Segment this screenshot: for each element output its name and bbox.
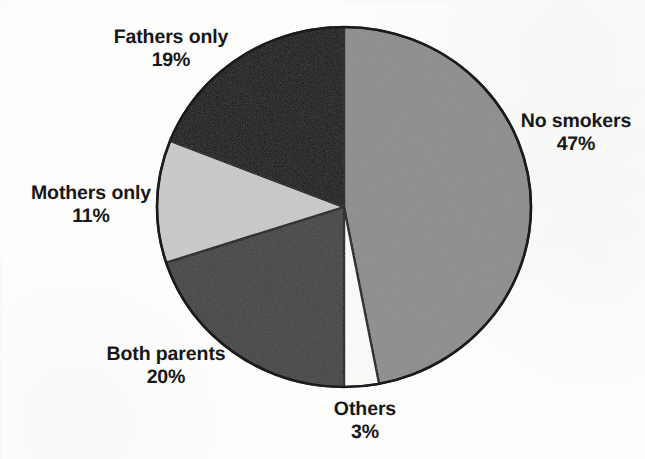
slice-label-fathers-only-name: Fathers only <box>114 26 229 48</box>
slice-label-fathers-only: Fathers only 19% <box>92 26 250 71</box>
slice-label-mothers-only-value: 11% <box>16 205 166 228</box>
slice-label-others-value: 3% <box>298 421 432 444</box>
slice-label-others-name: Others <box>334 398 396 420</box>
slice-label-others: Others 3% <box>298 398 432 443</box>
slice-label-fathers-only-value: 19% <box>92 49 250 72</box>
pie-slice-no-smokers <box>344 27 531 384</box>
slice-label-mothers-only-name: Mothers only <box>31 182 151 204</box>
slice-label-mothers-only: Mothers only 11% <box>16 182 166 227</box>
slice-label-no-smokers-name: No smokers <box>521 110 632 132</box>
slice-label-both-parents-name: Both parents <box>106 343 225 365</box>
slice-label-no-smokers-value: 47% <box>507 133 645 156</box>
slice-label-no-smokers: No smokers 47% <box>507 110 645 155</box>
slice-label-both-parents-value: 20% <box>86 366 246 389</box>
pie-slices-group <box>157 27 531 387</box>
pie-chart: Fathers only 19% No smokers 47% Mothers … <box>0 0 645 459</box>
slice-label-both-parents: Both parents 20% <box>86 343 246 388</box>
